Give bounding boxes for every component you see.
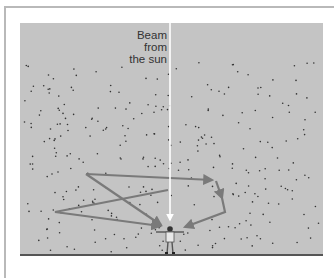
beam-label-line1: Beam from	[111, 29, 167, 53]
beam-label-line2: the sun	[111, 53, 167, 65]
observer-person	[156, 226, 184, 254]
ground-line	[20, 254, 323, 256]
atmosphere-scene	[0, 0, 334, 278]
beam-label: Beam from the sun	[111, 29, 167, 65]
air-particles	[24, 62, 320, 253]
